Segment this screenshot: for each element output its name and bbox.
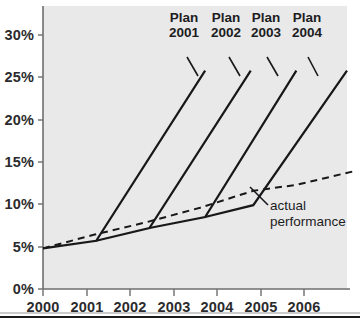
plan-2004-label-line1: Plan: [293, 10, 322, 25]
plan-vs-actual-chart: 30% 25% 20% 15% 10% 5% 0% 2000 2001 2002…: [0, 0, 360, 321]
plan-2001-label-line1: Plan: [170, 10, 199, 25]
y-tick-label-5: 5%: [13, 239, 34, 255]
actual-performance-line1: actual: [270, 198, 306, 213]
actual-performance-line2: performance: [270, 214, 346, 229]
plot-area-background: [43, 6, 347, 289]
y-tick-label-20: 20%: [4, 112, 34, 128]
plan-2002-label: Plan 2002: [211, 10, 241, 40]
plan-2003-label-line1: Plan: [252, 10, 281, 25]
plan-2003-label-line2: 2003: [251, 25, 282, 40]
y-tick-label-30: 30%: [4, 27, 34, 43]
chart-svg: 30% 25% 20% 15% 10% 5% 0% 2000 2001 2002…: [0, 0, 360, 321]
y-tick-label-0: 0%: [13, 281, 34, 297]
plan-2001-label: Plan 2001: [169, 10, 200, 40]
plan-2003-label: Plan 2003: [251, 10, 282, 40]
plan-2002-label-line2: 2002: [211, 25, 241, 40]
plan-2004-label: Plan 2004: [292, 10, 323, 40]
plan-2004-label-line2: 2004: [292, 25, 323, 40]
y-tick-label-10: 10%: [4, 196, 34, 212]
plan-2002-label-line1: Plan: [212, 10, 241, 25]
y-tick-label-15: 15%: [4, 154, 34, 170]
plan-2001-label-line2: 2001: [169, 25, 200, 40]
y-tick-label-25: 25%: [4, 69, 34, 85]
